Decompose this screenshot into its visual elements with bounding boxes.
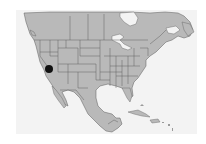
land-caribbean-islands bbox=[140, 104, 173, 131]
land-cuba bbox=[128, 110, 150, 117]
location-marker[interactable] bbox=[45, 65, 53, 73]
land-hispaniola bbox=[150, 119, 160, 123]
north-america-map bbox=[0, 0, 206, 144]
land-florida bbox=[122, 88, 132, 102]
